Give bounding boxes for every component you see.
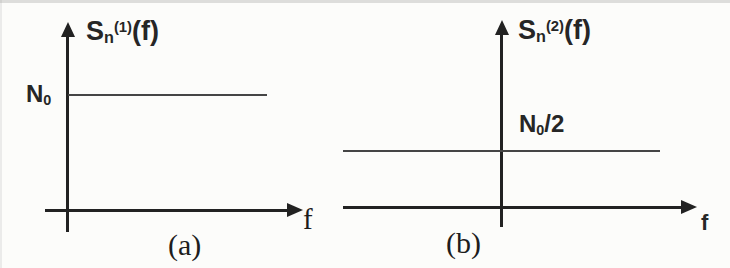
x-axis-arrow-icon-b xyxy=(681,200,697,214)
ylabel-a-base: S xyxy=(86,16,104,46)
x-axis-label-b: f xyxy=(701,210,708,236)
level-label-a: N0 xyxy=(26,80,51,108)
scan-artifact-top-edge xyxy=(0,0,730,3)
psd-level-line-a xyxy=(68,94,267,96)
ylabel-b-base: S xyxy=(518,15,536,45)
ylabel-a-superscript: (1) xyxy=(114,19,132,35)
y-axis-label-b: Sn(2)(f) xyxy=(518,15,591,46)
x-axis-b xyxy=(343,206,682,209)
ylabel-b-argument: (f) xyxy=(564,15,591,45)
level-label-b: N0/2 xyxy=(519,110,564,138)
x-axis-a xyxy=(45,209,288,212)
caption-b: (b) xyxy=(446,226,481,260)
ylabel-a-subscript: n xyxy=(104,28,114,46)
level-b-base: N xyxy=(519,110,536,137)
psd-figure: Sn(1)(f) N0 f (a) Sn(2)(f) N0/2 f (b) xyxy=(0,0,730,268)
y-axis-b xyxy=(500,33,503,227)
psd-level-line-b xyxy=(343,150,660,152)
level-a-base: N xyxy=(26,80,43,107)
caption-a: (a) xyxy=(168,228,201,262)
x-axis-label-a: f xyxy=(303,203,313,236)
y-axis-label-a: Sn(1)(f) xyxy=(86,16,159,47)
level-a-subscript: 0 xyxy=(43,92,51,108)
ylabel-b-superscript: (2) xyxy=(546,18,564,34)
level-b-suffix: /2 xyxy=(544,110,564,137)
ylabel-a-argument: (f) xyxy=(132,16,159,46)
y-axis-a xyxy=(66,35,69,232)
scan-artifact-left-edge xyxy=(0,0,2,268)
x-axis-arrow-icon-a xyxy=(287,203,303,217)
ylabel-b-subscript: n xyxy=(536,27,546,45)
